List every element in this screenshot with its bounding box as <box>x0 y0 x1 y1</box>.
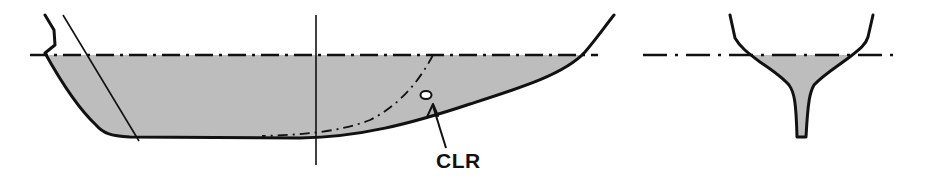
section-view <box>643 15 896 137</box>
profile-view <box>30 15 614 165</box>
profile-underwater-area <box>45 55 583 138</box>
clr-label: CLR <box>436 149 481 173</box>
clr-marker <box>421 91 432 99</box>
